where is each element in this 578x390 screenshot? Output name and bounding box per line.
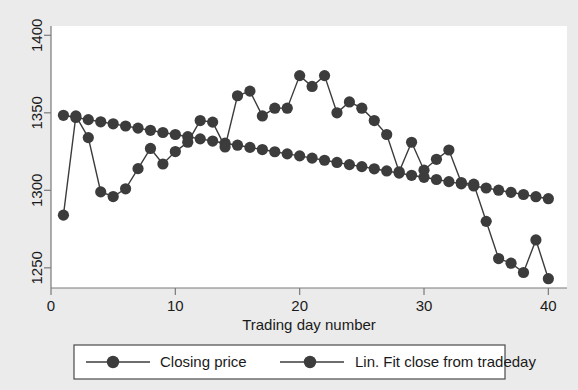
data-point bbox=[543, 273, 554, 284]
data-point bbox=[182, 137, 193, 148]
data-point bbox=[207, 117, 218, 128]
trading-price-chart: 1250130013501400 010203040 Trading day n… bbox=[0, 0, 578, 390]
data-point bbox=[170, 146, 181, 157]
data-point bbox=[170, 129, 181, 140]
data-point bbox=[406, 170, 417, 181]
data-point bbox=[381, 165, 392, 176]
y-tick-label-1300: 1300 bbox=[28, 174, 45, 207]
x-axis-title: Trading day number bbox=[242, 316, 376, 333]
y-tick-label-1400: 1400 bbox=[28, 19, 45, 52]
data-point bbox=[83, 132, 94, 143]
data-point bbox=[331, 157, 342, 168]
data-point bbox=[406, 137, 417, 148]
data-point bbox=[269, 146, 280, 157]
data-point bbox=[219, 141, 230, 152]
legend-marker-lin-fit bbox=[304, 356, 316, 368]
data-point bbox=[95, 116, 106, 127]
data-point bbox=[530, 234, 541, 245]
data-point bbox=[518, 267, 529, 278]
data-point bbox=[493, 253, 504, 264]
chart-container: 1250130013501400 010203040 Trading day n… bbox=[0, 0, 578, 390]
data-point bbox=[232, 140, 243, 151]
data-point bbox=[481, 182, 492, 193]
data-point bbox=[70, 110, 81, 121]
x-tick-label-30: 30 bbox=[416, 297, 433, 314]
data-point bbox=[505, 258, 516, 269]
data-point bbox=[257, 110, 268, 121]
data-point bbox=[307, 152, 318, 163]
data-point bbox=[307, 81, 318, 92]
data-point bbox=[369, 115, 380, 126]
x-tick-label-20: 20 bbox=[291, 297, 308, 314]
data-point bbox=[319, 155, 330, 166]
data-point bbox=[95, 186, 106, 197]
data-point bbox=[418, 165, 429, 176]
data-point bbox=[481, 216, 492, 227]
data-point bbox=[58, 210, 69, 221]
y-tick-label-1250: 1250 bbox=[28, 251, 45, 284]
x-tick-label-40: 40 bbox=[540, 297, 557, 314]
data-point bbox=[207, 135, 218, 146]
data-point bbox=[58, 110, 69, 121]
data-point bbox=[518, 189, 529, 200]
data-point bbox=[108, 118, 119, 129]
x-tick-label-0: 0 bbox=[47, 297, 55, 314]
data-point bbox=[443, 144, 454, 155]
data-point bbox=[468, 179, 479, 190]
data-point bbox=[195, 115, 206, 126]
chart-legend: Closing price Lin. Fit close from traded… bbox=[74, 345, 536, 379]
data-point bbox=[344, 96, 355, 107]
data-point bbox=[331, 107, 342, 118]
data-point bbox=[431, 174, 442, 185]
y-tick-label-1350: 1350 bbox=[28, 96, 45, 129]
data-point bbox=[244, 142, 255, 153]
data-point bbox=[530, 191, 541, 202]
data-point bbox=[232, 90, 243, 101]
data-point bbox=[108, 191, 119, 202]
data-point bbox=[294, 70, 305, 81]
data-point bbox=[282, 148, 293, 159]
data-point bbox=[443, 176, 454, 187]
legend-marker-closing-price bbox=[107, 356, 119, 368]
data-point bbox=[505, 187, 516, 198]
data-point bbox=[157, 127, 168, 138]
data-point bbox=[257, 144, 268, 155]
data-point bbox=[83, 114, 94, 125]
data-point bbox=[195, 133, 206, 144]
data-point bbox=[120, 120, 131, 131]
data-point bbox=[244, 86, 255, 97]
x-tick-label-10: 10 bbox=[167, 297, 184, 314]
data-point bbox=[319, 70, 330, 81]
data-point bbox=[369, 163, 380, 174]
data-point bbox=[145, 143, 156, 154]
data-point bbox=[344, 159, 355, 170]
data-point bbox=[394, 166, 405, 177]
data-point bbox=[269, 103, 280, 114]
data-point bbox=[157, 158, 168, 169]
data-point bbox=[356, 161, 367, 172]
legend-label-lin-fit: Lin. Fit close from tradeday bbox=[355, 353, 536, 370]
legend-label-closing-price: Closing price bbox=[160, 353, 247, 370]
data-point bbox=[381, 129, 392, 140]
data-point bbox=[543, 193, 554, 204]
data-point bbox=[456, 177, 467, 188]
data-point bbox=[145, 125, 156, 136]
data-point bbox=[132, 163, 143, 174]
data-point bbox=[431, 154, 442, 165]
data-point bbox=[120, 183, 131, 194]
data-point bbox=[132, 123, 143, 134]
data-point bbox=[294, 150, 305, 161]
data-point bbox=[356, 103, 367, 114]
data-point bbox=[282, 103, 293, 114]
data-point bbox=[493, 185, 504, 196]
